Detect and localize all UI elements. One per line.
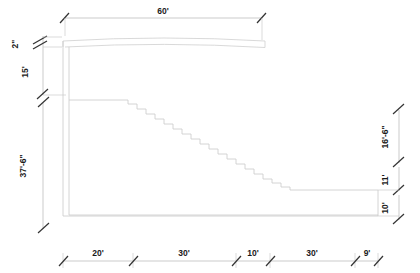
right-dimension-16ft6in-group: 16'-6" <box>380 104 404 167</box>
stepped-stair-profile <box>128 100 378 190</box>
right-16ft6-dimension-label: 16'-6" <box>380 125 390 148</box>
top-dimension-group: 60' <box>60 6 266 40</box>
left-dimension-15ft-group: 15' <box>20 48 66 99</box>
top-dimension-label: 60' <box>157 6 168 16</box>
right-10ft-tick-bottom <box>393 214 404 224</box>
beam-top-curve <box>63 38 265 41</box>
elevation-drawing: 60' 2" 15' 37'-6" <box>0 0 420 273</box>
left-15ft-tick-bottom <box>37 89 48 99</box>
left-37ft6-tick-bottom <box>38 223 49 233</box>
bottom-dimension-label-2: 30' <box>178 248 189 258</box>
wall-geometry-group <box>63 38 378 216</box>
right-dimension-11ft-group: 11' <box>380 167 404 195</box>
right-11ft-dimension-label: 11' <box>380 174 390 185</box>
right-dimension-10ft-group: 10' <box>378 190 404 224</box>
right-16ft6-tick-bottom <box>393 157 404 167</box>
left-15ft-dimension-label: 15' <box>20 66 30 77</box>
bottom-dimension-group: 20' 30' 10' 30' 9' <box>59 248 383 268</box>
beam-bottom-curve <box>65 44 265 47</box>
cad-drawing-canvas: 60' 2" 15' 37'-6" <box>0 0 420 273</box>
right-10ft-dimension-label: 10' <box>380 202 390 213</box>
left-dimension-2in-group: 2" <box>10 36 62 49</box>
left-37ft6-dimension-label: 37'-6" <box>18 154 28 177</box>
left-37ft6-tick-top <box>38 97 49 107</box>
bottom-dimension-label-4: 30' <box>306 248 317 258</box>
left-2in-dimension-label: 2" <box>10 40 20 49</box>
left-dimension-37ft6in-group: 37'-6" <box>18 97 49 233</box>
bottom-dimension-label-3: 10' <box>247 248 258 258</box>
bottom-dimension-label-1: 20' <box>92 248 103 258</box>
bottom-dimension-label-5: 9' <box>364 248 371 258</box>
right-16ft6-tick-top <box>393 104 404 114</box>
